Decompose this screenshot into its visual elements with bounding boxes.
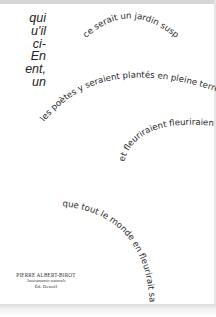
poem-line-hanging-garden: ce serait un jardin suspendu <box>0 0 181 40</box>
calligram-poem: ce serait un jardin suspendu les poètes … <box>0 0 216 317</box>
source-credit: PIERRE ALBERT-BIROT Amusements naturels … <box>2 272 90 290</box>
page-bottom-border <box>0 304 216 317</box>
credit-publisher: Éd. Denoël <box>2 284 90 290</box>
poem-line-buttonhole: que tout le monde en fleurirait sa bouto… <box>0 0 158 316</box>
poem-line-poets-planted: les poètes y seraient plantés en pleine … <box>38 69 216 123</box>
